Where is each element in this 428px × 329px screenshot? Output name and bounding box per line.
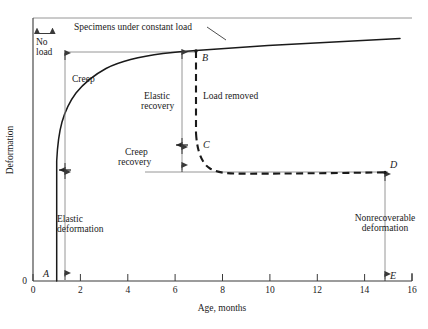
x-tick-label-14: 14: [360, 285, 370, 295]
elastic-deformation-label-line2: deformation: [57, 224, 104, 234]
x-tick-label-4: 4: [125, 285, 130, 295]
x-axis-title: Age, months: [198, 303, 247, 313]
x-tick-label-2: 2: [78, 285, 83, 295]
point-label-c: C: [203, 139, 210, 150]
creep-curve-plot: 0 2 4 6 8 10 12 14 16 0 Age, months Defo…: [0, 0, 428, 329]
plot-frame: [33, 18, 412, 281]
nonrecoverable-label-line2: deformation: [362, 223, 409, 233]
specimens-under-constant-load-label: Specimens under constant load: [74, 22, 192, 32]
y-origin-label: 0: [22, 276, 27, 286]
creep-recovery-label-line2: recovery: [118, 157, 151, 167]
creep-curve-figure: 0 2 4 6 8 10 12 14 16 0 Age, months Defo…: [0, 0, 428, 329]
creep-recovery-label-line1: Creep: [125, 147, 148, 157]
x-tick-labels: 0 2 4 6 8 10 12 14 16: [31, 285, 417, 295]
elastic-recovery-label-line1: Elastic: [144, 91, 170, 101]
y-axis-title: Deformation: [5, 125, 15, 174]
no-load-label-line2: load: [36, 47, 53, 57]
elastic-recovery-label-line2: recovery: [141, 101, 174, 111]
x-tick-label-6: 6: [173, 285, 178, 295]
x-tick-label-10: 10: [265, 285, 275, 295]
point-label-d: D: [389, 159, 398, 170]
load-removed-label: Load removed: [203, 91, 258, 101]
constant-load-curve: [57, 39, 400, 281]
creep-recovery-dashed-curve: [196, 133, 385, 174]
no-load-label-line1: No: [36, 37, 48, 47]
creep-label: Creep: [72, 74, 95, 84]
point-marker-b: [194, 49, 197, 52]
x-tick-label-16: 16: [407, 285, 417, 295]
point-label-b: B: [202, 52, 208, 63]
middle-measure-group: Elastic recovery Creep recovery: [118, 52, 188, 172]
point-label-a: A: [42, 268, 50, 279]
x-tick-label-8: 8: [220, 285, 225, 295]
no-load-measure: No load: [36, 34, 53, 58]
x-tick-label-12: 12: [313, 285, 323, 295]
nonrecoverable-label-line1: Nonrecoverable: [355, 213, 416, 223]
specimens-leader-line: [207, 27, 226, 40]
x-tick-label-0: 0: [31, 285, 36, 295]
nonrecoverable-measure-group: Nonrecoverable deformation: [355, 174, 416, 281]
point-marker-d: [383, 171, 386, 174]
x-axis-ticks: [33, 274, 412, 281]
elastic-deformation-label-line1: Elastic: [57, 214, 83, 224]
point-label-e: E: [389, 270, 396, 281]
